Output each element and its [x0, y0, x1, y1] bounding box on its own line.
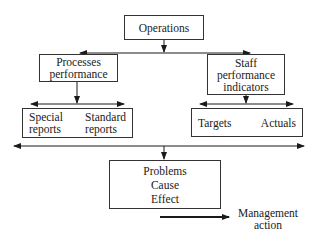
- staff-label-line1: Staff: [235, 57, 257, 69]
- staff-performance-indicators-box: Staff performance indicators: [207, 54, 285, 95]
- standard-reports-line1: Standard: [85, 111, 126, 123]
- actuals-label: Actuals: [261, 117, 296, 129]
- effect-label: Effect: [151, 192, 179, 206]
- standard-reports: Standard reports: [85, 111, 126, 137]
- operations-box: Operations: [124, 15, 204, 40]
- standard-reports-line2: reports: [85, 123, 126, 135]
- management-action-line1: Management: [235, 207, 301, 219]
- operations-label: Operations: [139, 22, 189, 34]
- targets-label: Targets: [198, 117, 231, 129]
- problems-cause-effect-box: Problems Cause Effect: [109, 160, 221, 209]
- problems-label: Problems: [143, 164, 186, 178]
- processes-performance-box: Processes performance: [39, 54, 118, 82]
- management-control-diagram: Operations Processes performance Staff p…: [0, 0, 317, 239]
- special-reports-line2: reports: [29, 123, 63, 135]
- processes-label-line1: Processes: [56, 56, 101, 68]
- staff-label-line2: performance: [217, 69, 275, 81]
- targets-actuals-box: Targets Actuals: [191, 108, 303, 137]
- management-action-label: Management action: [235, 207, 301, 231]
- special-reports: Special reports: [29, 111, 63, 137]
- special-reports-line1: Special: [29, 111, 63, 123]
- staff-label-line3: indicators: [223, 81, 268, 93]
- processes-label-line2: performance: [49, 68, 107, 80]
- reports-box: Special reports Standard reports: [22, 108, 133, 138]
- management-action-line2: action: [235, 219, 301, 231]
- cause-label: Cause: [151, 178, 179, 192]
